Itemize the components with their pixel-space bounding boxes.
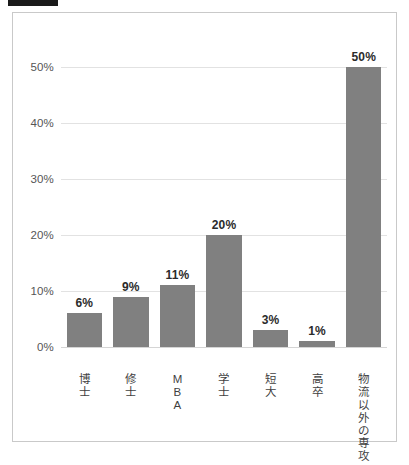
x-category-char: 専 <box>340 437 387 450</box>
x-category-char: 外 <box>340 412 387 425</box>
x-category-char: 流 <box>340 386 387 399</box>
x-category-label: 短大 <box>247 373 294 399</box>
bar[interactable] <box>299 341 334 347</box>
bar-value-label: 50% <box>340 50 387 64</box>
bar-value-label: 1% <box>294 324 341 338</box>
bar-slot: 1% <box>294 39 341 347</box>
x-category-label: 物流以外の専攻 <box>340 373 387 463</box>
x-category-char: 卒 <box>294 386 341 399</box>
x-category-char: 短 <box>247 373 294 386</box>
y-tick-label: 0% <box>37 341 54 353</box>
y-tick-label: 50% <box>30 61 54 73</box>
bar-slot: 9% <box>108 39 155 347</box>
x-category-label: 修士 <box>108 373 155 399</box>
bar[interactable] <box>67 313 102 347</box>
bar[interactable] <box>206 235 241 347</box>
x-category-label: 博士 <box>61 373 108 399</box>
bar[interactable] <box>160 285 195 347</box>
y-tick-label: 30% <box>30 173 54 185</box>
bar-series: 6%9%11%20%3%1%50% <box>61 39 387 347</box>
x-category-label: 学士 <box>201 373 248 399</box>
x-axis-labels: 博士修士MBA学士短大高卒物流以外の専攻 <box>61 373 387 465</box>
bar-slot: 50% <box>340 39 387 347</box>
x-category-char: 大 <box>247 386 294 399</box>
plot-area: 0%10%20%30%40%50% 6%9%11%20%3%1%50% <box>61 39 387 347</box>
y-tick-label: 40% <box>30 117 54 129</box>
bar[interactable] <box>113 297 148 347</box>
bar[interactable] <box>346 67 381 347</box>
chart-frame: 0%10%20%30%40%50% 6%9%11%20%3%1%50% 博士修士… <box>12 12 397 442</box>
bar-slot: 3% <box>247 39 294 347</box>
x-category-char: 攻 <box>340 450 387 463</box>
x-category-label: MBA <box>154 373 201 412</box>
x-category-char: 学 <box>201 373 248 386</box>
x-category-char: 高 <box>294 373 341 386</box>
gridline-0 <box>61 347 387 348</box>
x-category-char: M <box>154 373 201 386</box>
bar-value-label: 9% <box>108 280 155 294</box>
bar-value-label: 3% <box>247 313 294 327</box>
bar-value-label: 20% <box>201 218 248 232</box>
bar-slot: 20% <box>201 39 248 347</box>
redacted-title-bar <box>8 0 58 6</box>
x-category-char: 士 <box>61 386 108 399</box>
x-category-char: 士 <box>108 386 155 399</box>
bar[interactable] <box>253 330 288 347</box>
x-category-char: B <box>154 386 201 399</box>
x-category-char: 博 <box>61 373 108 386</box>
x-category-char: 士 <box>201 386 248 399</box>
x-category-char: 物 <box>340 373 387 386</box>
bar-value-label: 11% <box>154 268 201 282</box>
y-tick-label: 20% <box>30 229 54 241</box>
x-category-char: 以 <box>340 399 387 412</box>
y-tick-label: 10% <box>30 285 54 297</box>
bar-slot: 6% <box>61 39 108 347</box>
bar-slot: 11% <box>154 39 201 347</box>
x-category-char: の <box>340 425 387 438</box>
x-category-char: A <box>154 399 201 412</box>
x-category-label: 高卒 <box>294 373 341 399</box>
x-category-char: 修 <box>108 373 155 386</box>
bar-value-label: 6% <box>61 296 108 310</box>
